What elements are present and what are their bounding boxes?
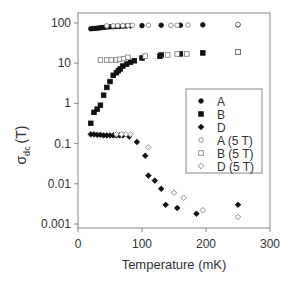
x-tick-label: 200 — [196, 237, 216, 251]
legend-marker-icon — [199, 112, 204, 117]
data-point — [105, 58, 110, 63]
data-point — [194, 211, 200, 217]
y-axis-label: σdc(T) — [13, 125, 32, 164]
data-point — [101, 93, 106, 98]
y-tick-label: 0.001 — [41, 217, 71, 231]
x-axis: 0100200300 — [75, 228, 281, 251]
data-point — [105, 85, 110, 90]
x-tick-label: 100 — [132, 237, 152, 251]
data-point — [235, 214, 241, 220]
data-point — [201, 51, 206, 56]
chart: 0.0010.010.1110100 0100200300 Temperatur… — [0, 0, 296, 287]
legend-label: A (5 T) — [217, 134, 253, 148]
data-point — [121, 23, 126, 28]
x-tick-label: 300 — [260, 237, 280, 251]
data-point — [142, 153, 148, 159]
y-tick-label: 0.1 — [54, 137, 71, 151]
data-point — [165, 53, 170, 58]
data-point — [174, 205, 180, 211]
data-point — [159, 23, 164, 28]
data-point — [236, 50, 241, 55]
data-point — [140, 23, 145, 28]
data-point — [126, 55, 131, 60]
legend-marker-icon — [199, 151, 204, 156]
data-point — [117, 57, 122, 62]
data-point — [200, 207, 206, 213]
legend-marker-icon — [199, 99, 204, 104]
legend-label: D (5 T) — [217, 160, 254, 174]
svg-text:σdc(T): σdc(T) — [13, 125, 32, 164]
legend-label: A — [217, 95, 225, 109]
data-point — [132, 58, 137, 63]
y-axis-label-sub: dc — [22, 146, 32, 156]
data-point — [185, 52, 190, 57]
data-point — [146, 173, 152, 179]
data-point — [186, 23, 191, 28]
data-point — [143, 54, 148, 59]
y-axis: 0.0010.010.1110100 — [41, 16, 78, 231]
legend-label: B — [217, 108, 225, 122]
data-point — [146, 23, 151, 28]
x-axis-label: Temperature (mK) — [122, 257, 227, 272]
data-point — [105, 24, 110, 29]
data-point — [158, 186, 164, 192]
data-point — [115, 23, 120, 28]
y-tick-label: 100 — [51, 16, 71, 30]
data-point — [175, 52, 180, 57]
data-point — [108, 79, 113, 84]
x-tick-label: 0 — [75, 237, 82, 251]
data-point — [98, 103, 103, 108]
data-point — [175, 23, 180, 28]
data-point — [98, 58, 103, 63]
y-tick-label: 1 — [64, 96, 71, 110]
data-point — [163, 202, 169, 208]
data-point — [236, 22, 241, 27]
data-point — [126, 23, 131, 28]
data-point — [146, 145, 152, 151]
data-point — [152, 178, 158, 184]
y-axis-label-unit: (T) — [13, 125, 29, 143]
legend: ABDA (5 T)B (5 T)D (5 T) — [186, 89, 262, 174]
legend-marker-icon — [199, 138, 204, 143]
series-a-5-t — [105, 22, 241, 28]
data-point — [134, 139, 140, 145]
data-point — [201, 23, 206, 28]
legend-label: D — [217, 121, 226, 135]
y-tick-label: 10 — [58, 56, 72, 70]
data-point — [89, 121, 94, 126]
data-point — [171, 190, 177, 196]
data-point — [109, 58, 114, 63]
y-tick-label: 0.01 — [48, 177, 72, 191]
data-point — [235, 202, 241, 208]
legend-label: B (5 T) — [217, 147, 253, 161]
data-point — [169, 23, 174, 28]
data-point — [181, 195, 187, 201]
data-point — [159, 53, 164, 58]
series-b-5-t — [98, 50, 240, 63]
data-point — [111, 24, 116, 29]
data-point — [130, 23, 135, 28]
